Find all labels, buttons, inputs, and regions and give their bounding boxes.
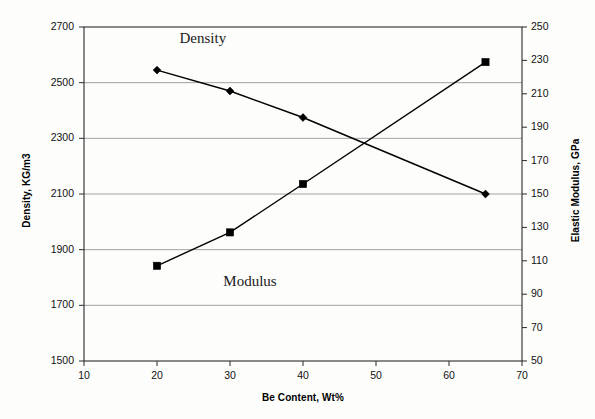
chart-plot-area xyxy=(0,0,595,419)
series-line-modulus xyxy=(157,62,486,266)
data-point-density-3 xyxy=(482,190,490,198)
data-point-modulus-3 xyxy=(482,59,489,66)
data-point-density-0 xyxy=(153,66,161,74)
y-right-tick-label: 210 xyxy=(531,87,573,99)
series-line-density xyxy=(157,70,486,194)
series-annotation-modulus: Modulus xyxy=(223,273,276,290)
x-tick-label: 30 xyxy=(210,369,250,381)
y-left-tick-label: 2100 xyxy=(32,187,74,199)
data-point-density-1 xyxy=(226,87,234,95)
y-right-tick-label: 190 xyxy=(531,120,573,132)
y-right-tick-label: 230 xyxy=(531,53,573,65)
data-point-modulus-2 xyxy=(299,180,306,187)
data-series xyxy=(153,59,489,270)
x-tick-label: 10 xyxy=(64,369,104,381)
data-point-density-2 xyxy=(299,114,307,122)
y-right-tick-label: 90 xyxy=(531,287,573,299)
series-annotation-density: Density xyxy=(180,30,227,47)
x-tick-label: 60 xyxy=(429,369,469,381)
x-tick-label: 40 xyxy=(283,369,323,381)
y-right-tick-label: 250 xyxy=(531,20,573,32)
y-left-tick-label: 2300 xyxy=(32,131,74,143)
y-left-tick-label: 1700 xyxy=(32,298,74,310)
y-right-tick-label: 70 xyxy=(531,321,573,333)
data-point-modulus-1 xyxy=(226,229,233,236)
x-tick-label: 70 xyxy=(502,369,542,381)
y-right-tick-label: 50 xyxy=(531,354,573,366)
y-left-tick-label: 2500 xyxy=(32,76,74,88)
y-axis-left-title: Density, KG/m3 xyxy=(21,111,32,271)
y-left-tick-label: 1500 xyxy=(32,354,74,366)
y-right-tick-label: 110 xyxy=(531,254,573,266)
data-point-modulus-0 xyxy=(153,262,160,269)
chart-container: Density, KG/m3 Elastic Modulus, GPa Be C… xyxy=(0,0,595,419)
x-tick-label: 20 xyxy=(137,369,177,381)
y-left-tick-label: 1900 xyxy=(32,243,74,255)
y-right-tick-label: 130 xyxy=(531,220,573,232)
x-axis-title: Be Content, Wt% xyxy=(84,392,522,403)
axis-ticks xyxy=(79,27,527,366)
y-right-tick-label: 150 xyxy=(531,187,573,199)
x-tick-label: 50 xyxy=(356,369,396,381)
y-left-tick-label: 2700 xyxy=(32,20,74,32)
y-right-tick-label: 170 xyxy=(531,154,573,166)
